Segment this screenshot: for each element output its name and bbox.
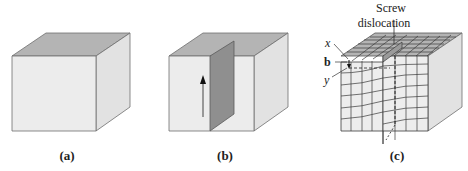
- label-b: b: [324, 55, 331, 69]
- caption-b: (b): [217, 148, 233, 163]
- screw-label: Screw: [376, 1, 406, 15]
- panel-c-lattice: [332, 20, 462, 144]
- leader-x: [334, 44, 348, 59]
- lattice-front-right: [383, 56, 428, 144]
- caption-a: (a): [59, 148, 74, 163]
- label-x: x: [324, 36, 331, 50]
- label-y: y: [323, 73, 330, 87]
- panel-a-cube: [12, 33, 130, 131]
- figure-canvas: (a) (b): [0, 0, 468, 171]
- caption-c: (c): [390, 148, 404, 163]
- panel-b-cube: [169, 33, 288, 131]
- dislocation-label: dislocation: [358, 16, 411, 30]
- cube-a-front-face: [12, 56, 96, 131]
